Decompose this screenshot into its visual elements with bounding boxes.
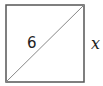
diagonal-label: 6 (27, 34, 37, 52)
square-diagram: 6 x (0, 0, 103, 86)
side-label: x (91, 34, 100, 53)
diagonal-line (6, 5, 84, 82)
